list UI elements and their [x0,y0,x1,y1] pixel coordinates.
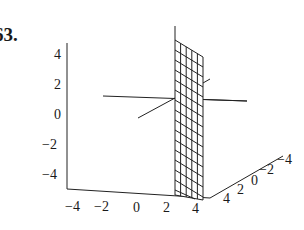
x-tick: 0 [133,201,140,215]
z-tick: −2 [42,138,57,152]
x-tick: 2 [163,201,170,215]
y-tick: 4 [223,192,230,206]
y-tick: 0 [251,174,258,188]
y-tick: 2 [237,183,244,197]
x-tick: −2 [94,200,109,214]
y-tick: −2 [259,163,274,177]
x-tick: −4 [65,200,80,214]
z-tick: 0 [54,108,61,122]
plot-canvas [0,0,304,230]
y-axis-line-back [203,79,210,83]
mesh-plane [175,40,203,200]
y-axis-line-front [138,98,175,118]
y-tick: −4 [277,153,292,167]
x-tick: 4 [192,202,199,216]
z-tick: −4 [42,168,57,182]
z-tick: 4 [54,48,61,62]
z-tick: 2 [54,78,61,92]
